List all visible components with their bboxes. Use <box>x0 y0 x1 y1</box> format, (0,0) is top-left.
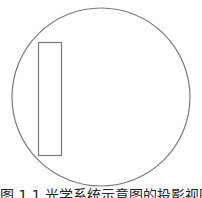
figure-caption: 图 1.1 光学系统示意图的投影视图 <box>0 187 202 198</box>
diagram-canvas <box>0 0 202 198</box>
figure: 图 1.1 光学系统示意图的投影视图 <box>0 0 202 198</box>
inner-rectangle <box>39 43 62 156</box>
